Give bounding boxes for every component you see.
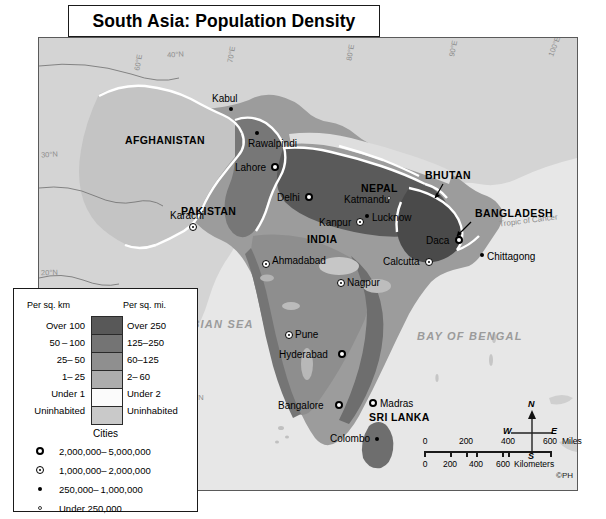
legend-km-label: Over 100 (21, 320, 85, 331)
legend-km-label: 1– 25 (21, 371, 85, 382)
scale-tick-km (450, 451, 452, 457)
city-marker-delhi (305, 193, 313, 201)
page-title: South Asia: Population Density (93, 11, 356, 32)
legend-km-label: 25– 50 (21, 354, 85, 365)
city-label-hyderabad: Hyderabad (279, 350, 328, 360)
city-label-delhi: Delhi (277, 193, 300, 203)
scale-bar-line (424, 451, 550, 453)
city-marker-kanpur (356, 218, 364, 226)
city-label-madras: Madras (380, 399, 413, 409)
country-label-bangladesh: BANGLADESH (475, 208, 553, 219)
city-marker-bangalore (335, 401, 343, 409)
city-label-colombo: Colombo (330, 434, 370, 444)
legend-swatch (92, 353, 122, 371)
legend-mi-label: 2– 60 (127, 371, 150, 382)
city-marker-lahore (271, 163, 279, 171)
scale-bar: 0 200 400 600 Miles 0 200 400 600 Kilome… (404, 434, 569, 472)
legend-city-symbol-small (38, 487, 42, 491)
legend-city-label: 1,000,000– 2,000,000 (59, 465, 151, 476)
legend-city-label: Under 250,000 (59, 503, 122, 514)
map-title-plate: South Asia: Population Density (68, 5, 380, 37)
legend-swatch (92, 371, 122, 389)
country-label-srilanka: SRI LANKA (369, 412, 430, 423)
scale-tick (508, 451, 510, 457)
legend-swatch (92, 389, 122, 407)
city-label-calcutta: Calcutta (383, 257, 420, 267)
scale-km-unit: Kilometers (514, 459, 554, 469)
city-label-kanpur: Kanpur (319, 218, 351, 228)
scale-tick (424, 451, 426, 457)
scale-miles-tick-label: 400 (501, 436, 515, 446)
scale-km-tick-label: 200 (443, 459, 457, 469)
city-label-daca: Daca (426, 236, 449, 246)
grid-label: 20°N (41, 268, 58, 278)
legend-mi-label: Under 2 (127, 388, 161, 399)
legend-city-label: 2,000,000– 5,000,000 (59, 446, 151, 457)
legend-swatch (92, 317, 122, 335)
city-marker-madras (369, 399, 377, 407)
grid-label: 30°N (41, 150, 58, 160)
legend-cities-title: Cities (19, 428, 192, 439)
city-label-lucknow: Lucknow (372, 213, 411, 223)
country-label-nepal: NEPAL (361, 183, 398, 194)
map-screenshot: 40°N 30°N 20°N 10°N 60°E 70°E 80°E 90°E … (0, 0, 606, 519)
scale-miles-unit: Miles (562, 436, 582, 446)
legend-mi-label: 125–250 (127, 337, 164, 348)
scale-tick (550, 451, 552, 457)
city-label-bangalore: Bangalore (278, 401, 324, 411)
sea-label-bengal: BAY OF BENGAL (417, 331, 523, 342)
legend-city-symbol-tiny (38, 506, 42, 510)
legend-swatch (92, 407, 122, 424)
legend-km-label: 50 – 100 (21, 337, 85, 348)
legend-header-per-sq-mi: Per sq. mi. (123, 300, 166, 310)
publisher-credit: ©PH (556, 471, 573, 480)
scale-miles-tick-label: 600 (543, 436, 557, 446)
city-marker-daca (455, 236, 463, 244)
city-marker-ahmadabad (262, 260, 270, 268)
city-label-ahmadabad: Ahmadabad (272, 256, 326, 266)
scale-miles-tick-label: 200 (459, 436, 473, 446)
country-label-india: INDIA (307, 234, 338, 245)
scale-miles-tick-label: 0 (423, 436, 428, 446)
scale-km-tick-label: 400 (469, 459, 483, 469)
city-label-katmandu: Katmandu (344, 195, 390, 205)
legend-mi-label: Over 250 (127, 320, 166, 331)
city-label-pune: Pune (295, 330, 318, 340)
map-legend: Per sq. km Per sq. mi. Over 100 50 – 100… (13, 288, 198, 512)
legend-mi-label: Uninhabited (127, 405, 178, 416)
legend-swatch (92, 335, 122, 353)
legend-mi-label: 60–125 (127, 354, 159, 365)
city-label-karachi: Karachi (170, 211, 204, 221)
city-marker-calcutta (425, 258, 433, 266)
country-label-afghanistan: AFGHANISTAN (125, 135, 205, 146)
scale-tick (466, 451, 468, 457)
city-marker-nagpur (337, 279, 345, 287)
scale-tick-km (502, 451, 504, 457)
city-label-nagpur: Nagpur (347, 278, 380, 288)
grid-label: 40°N (167, 50, 184, 60)
country-label-bhutan: BHUTAN (425, 170, 471, 181)
scale-km-tick-label: 600 (496, 459, 510, 469)
city-marker-karachi (189, 223, 197, 231)
city-marker-pune (285, 331, 293, 339)
city-label-rawalpindi: Rawalpindi (248, 139, 297, 149)
legend-km-label: Uninhabited (21, 405, 85, 416)
city-marker-hyderabad (338, 350, 346, 358)
city-label-lahore: Lahore (235, 163, 266, 173)
scale-tick-km (476, 451, 478, 457)
legend-city-symbol-medium (36, 466, 44, 474)
legend-km-label: Under 1 (21, 388, 85, 399)
city-label-chittagong: Chittagong (487, 252, 535, 262)
legend-city-symbol-large (36, 447, 44, 455)
city-label-kabul: Kabul (212, 94, 238, 104)
legend-swatch-column (91, 316, 123, 425)
scale-km-tick-label: 0 (423, 459, 428, 469)
compass-north-label: N (528, 399, 535, 409)
legend-header-per-sq-km: Per sq. km (27, 300, 70, 310)
legend-city-label: 250,000– 1,000,000 (59, 484, 143, 495)
